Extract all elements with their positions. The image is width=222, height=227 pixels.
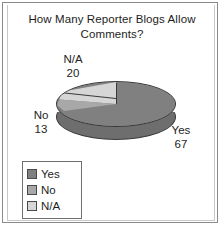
- pie-label-na: N/A 20: [56, 52, 90, 80]
- pie-label-na-name: N/A: [56, 52, 90, 66]
- pie-label-no-value: 13: [28, 122, 54, 136]
- pie-chart: [52, 80, 180, 150]
- pie-label-yes-name: Yes: [164, 123, 198, 137]
- legend-swatch-na-icon: [27, 201, 37, 211]
- legend-swatch-yes-icon: [27, 169, 37, 179]
- pie-top-face: [56, 81, 176, 127]
- legend-swatch-no-icon: [27, 185, 37, 195]
- pie-label-na-value: 20: [56, 66, 90, 80]
- pie-label-no-name: No: [28, 108, 54, 122]
- legend-label-na: N/A: [41, 200, 60, 213]
- legend-item-no: No: [27, 182, 76, 198]
- chart-screenshot: How Many Reporter Blogs Allow Comments? …: [0, 0, 222, 227]
- pie-slice-divider-top: [116, 83, 117, 104]
- legend-item-na: N/A: [27, 198, 76, 214]
- legend-label-yes: Yes: [41, 168, 60, 181]
- chart-legend: Yes No N/A: [22, 161, 82, 219]
- legend-item-yes: Yes: [27, 166, 76, 182]
- pie-label-no: No 13: [28, 108, 54, 136]
- pie-label-yes: Yes 67: [164, 123, 198, 151]
- chart-title: How Many Reporter Blogs Allow Comments?: [16, 12, 208, 42]
- pie-label-yes-value: 67: [164, 137, 198, 151]
- legend-label-no: No: [41, 184, 56, 197]
